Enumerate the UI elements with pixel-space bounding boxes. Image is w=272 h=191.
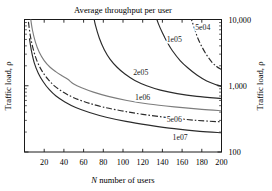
x-tick-label-180: 180 <box>196 158 208 167</box>
contour-label-5e06: 5e06 <box>167 115 182 124</box>
x-tick-label-140: 140 <box>156 158 168 167</box>
x-tick-label-80: 80 <box>99 158 107 167</box>
x-tick-label-40: 40 <box>60 158 68 167</box>
x-tick-label-60: 60 <box>80 158 88 167</box>
x-tick-label-100: 100 <box>117 158 129 167</box>
x-tick-label-120: 120 <box>137 158 149 167</box>
y-axis-label-right: Traffic load, ρ <box>255 62 265 111</box>
chart-figure: Average throughput per user 5e045e041e05… <box>0 0 272 191</box>
contour-curves <box>28 15 221 132</box>
contour-label-5e04: 5e04 <box>195 23 210 32</box>
x-tick-label-20: 20 <box>40 158 48 167</box>
contour-curve-1e05 <box>156 15 222 86</box>
y-axis-label-left: Traffic load, ρ <box>3 62 13 111</box>
contour-label-1e07: 1e07 <box>173 133 188 142</box>
throughput-contour-plot: Average throughput per user 5e045e041e05… <box>0 0 272 191</box>
y-tick-label-1000: 1,000 <box>229 82 247 91</box>
contour-label-2e05: 2e05 <box>133 68 148 77</box>
y-tick-label-100: 100 <box>229 148 241 157</box>
tick-labels: 204060801001201401601802001001,00010,000 <box>40 16 251 168</box>
x-tick-label-160: 160 <box>176 158 188 167</box>
contour-curve-1e06 <box>30 17 221 111</box>
y-tick-label-10000: 10,000 <box>229 16 252 25</box>
contour-curve-1e07 <box>29 38 221 132</box>
x-axis-label: N number of users <box>90 175 155 185</box>
contour-label-1e06: 1e06 <box>135 93 150 102</box>
contour-label-1e05: 1e05 <box>167 35 182 44</box>
x-tick-label-200: 200 <box>215 158 227 167</box>
chart-title: Average throughput per user <box>74 5 172 15</box>
